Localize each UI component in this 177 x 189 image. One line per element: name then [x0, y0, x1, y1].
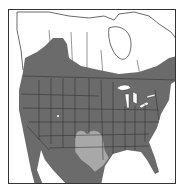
range-map: [8, 9, 176, 184]
location-marker: [57, 115, 60, 118]
map-svg: [9, 10, 176, 184]
